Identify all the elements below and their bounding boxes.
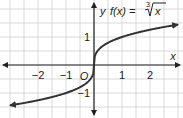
- x-tick-label: −1: [60, 69, 73, 81]
- x-tick-label: 2: [147, 69, 153, 81]
- graph-canvas: −2−1121−1 x y O f(x) = 3 x: [0, 0, 183, 118]
- x-axis-label: x: [169, 50, 176, 62]
- x-tick-label: 1: [119, 69, 125, 81]
- cube-root-function-graph: −2−1121−1 x y O f(x) = 3 x: [0, 0, 183, 118]
- function-label: f(x) =: [110, 5, 136, 17]
- grid-lines: [0, 0, 183, 118]
- x-tick-label: −2: [32, 69, 45, 81]
- y-tick-label: 1: [84, 31, 90, 43]
- origin-label: O: [80, 70, 89, 82]
- axes: [3, 3, 180, 115]
- y-axis-label: y: [99, 5, 107, 17]
- radicand: x: [154, 5, 161, 17]
- radical-index: 3: [146, 1, 150, 8]
- y-tick-label: −1: [77, 87, 90, 99]
